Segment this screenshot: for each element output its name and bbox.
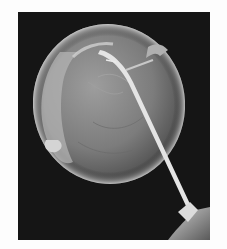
- support-base: [168, 202, 210, 240]
- micrograph-figure: [18, 12, 210, 240]
- micrograph-image: [18, 12, 210, 240]
